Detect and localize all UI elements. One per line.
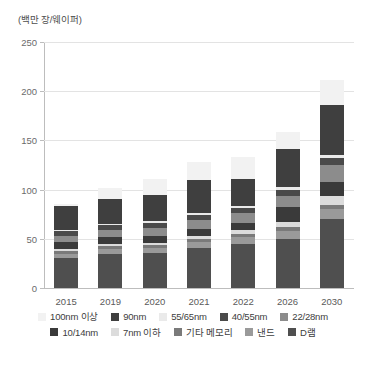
bar-stack: [143, 179, 167, 288]
bar-group[interactable]: 2019: [98, 188, 122, 288]
bar-segment[interactable]: [231, 179, 255, 207]
legend-item-label: 55/65nm: [171, 312, 207, 322]
bar-stack: [54, 204, 78, 289]
bar-segment[interactable]: [276, 231, 300, 239]
bar-segment[interactable]: [231, 213, 255, 223]
bar-segment[interactable]: [54, 206, 78, 230]
bar-stack: [231, 157, 255, 288]
legend-item-label: 100nm 이상: [50, 312, 98, 322]
bar-segment[interactable]: [187, 248, 211, 288]
bar-segment[interactable]: [320, 182, 344, 196]
legend-item-label: 낸드: [257, 328, 275, 338]
x-axis-tick-label: 2030: [321, 296, 342, 307]
y-axis-tick-mark: [40, 288, 44, 289]
bar-segment[interactable]: [320, 196, 344, 206]
y-axis-tick-label: 100: [21, 184, 37, 195]
plot-area: 050100150200250 201520192020202120222026…: [44, 42, 354, 288]
legend-row: 10/14nm7nm 이하기타 메모리낸드D램: [50, 328, 315, 338]
y-axis-tick-label: 0: [32, 283, 37, 294]
bar-segment[interactable]: [187, 229, 211, 236]
legend-item[interactable]: 40/55nm: [220, 312, 268, 322]
y-axis-tick-label: 200: [21, 86, 37, 97]
legend-swatch-icon: [174, 328, 182, 336]
legend-item-label: 7nm 이하: [123, 328, 161, 338]
chart-legend: 100nm 이상90nm55/65nm40/55nm22/28nm10/14nm…: [0, 312, 366, 337]
legend-item-label: 10/14nm: [62, 328, 98, 338]
bar-segment[interactable]: [320, 219, 344, 288]
legend-item[interactable]: 100nm 이상: [38, 312, 98, 322]
bar-segment[interactable]: [54, 258, 78, 288]
bar-stack: [187, 162, 211, 288]
axis-unit-caption: (백만 장/웨이퍼): [18, 12, 82, 26]
bar-segment[interactable]: [98, 199, 122, 225]
legend-item[interactable]: 90nm: [111, 312, 146, 322]
bar-segment[interactable]: [98, 188, 122, 199]
x-axis-tick-label: 2020: [144, 296, 165, 307]
stacked-bar-chart: (백만 장/웨이퍼) 050100150200250 2015201920202…: [0, 0, 366, 368]
bar-segment[interactable]: [320, 105, 344, 155]
legend-swatch-icon: [280, 313, 288, 321]
bar-segment[interactable]: [231, 244, 255, 288]
bar-group[interactable]: 2015: [54, 204, 78, 289]
bar-segment[interactable]: [320, 158, 344, 165]
bar-group[interactable]: 2022: [231, 157, 255, 288]
legend-item-label: 40/55nm: [232, 312, 268, 322]
bar-segment[interactable]: [54, 242, 78, 249]
y-axis-tick-label: 150: [21, 135, 37, 146]
bar-segment[interactable]: [320, 80, 344, 105]
bar-group[interactable]: 2020: [143, 179, 167, 288]
bar-segment[interactable]: [187, 220, 211, 229]
bar-segment[interactable]: [276, 239, 300, 288]
y-axis-tick-label: 50: [26, 233, 37, 244]
bar-group[interactable]: 2026: [276, 132, 300, 288]
bar-segment[interactable]: [231, 157, 255, 179]
x-axis-tick-label: 2022: [233, 296, 254, 307]
legend-item[interactable]: 10/14nm: [50, 328, 98, 338]
bar-stack: [276, 132, 300, 288]
legend-item-label: 22/28nm: [292, 312, 328, 322]
legend-item[interactable]: 55/65nm: [159, 312, 207, 322]
bar-segment[interactable]: [143, 253, 167, 288]
x-axis-tick-label: 2015: [56, 296, 77, 307]
legend-swatch-icon: [245, 328, 253, 336]
legend-swatch-icon: [111, 328, 119, 336]
bar-segment[interactable]: [320, 209, 344, 219]
bar-segment[interactable]: [231, 223, 255, 230]
bar-segment[interactable]: [187, 162, 211, 180]
bar-group[interactable]: 2021: [187, 162, 211, 288]
bar-segment[interactable]: [276, 196, 300, 208]
bar-group[interactable]: 2030: [320, 80, 344, 288]
bar-segment[interactable]: [276, 149, 300, 186]
legend-item-label: 90nm: [123, 312, 146, 322]
y-axis-tick-label: 250: [21, 37, 37, 48]
legend-item[interactable]: 22/28nm: [280, 312, 328, 322]
bar-segment[interactable]: [187, 180, 211, 213]
x-axis-tick-label: 2019: [100, 296, 121, 307]
legend-item-label: D램: [300, 328, 315, 338]
bar-segment[interactable]: [98, 254, 122, 288]
bar-segment[interactable]: [276, 132, 300, 150]
legend-item[interactable]: 낸드: [245, 328, 275, 338]
bar-stack: [98, 188, 122, 288]
legend-swatch-icon: [111, 313, 119, 321]
legend-item-label: 기타 메모리: [186, 328, 232, 338]
legend-swatch-icon: [159, 313, 167, 321]
bar-segment[interactable]: [276, 207, 300, 222]
bar-segment[interactable]: [143, 179, 167, 195]
legend-row: 100nm 이상90nm55/65nm40/55nm22/28nm: [38, 312, 328, 322]
legend-item[interactable]: 7nm 이하: [111, 328, 161, 338]
bars-layer: 2015201920202021202220262030: [44, 42, 354, 288]
bar-segment[interactable]: [143, 228, 167, 236]
gridline: [44, 288, 354, 289]
legend-item[interactable]: 기타 메모리: [174, 328, 232, 338]
bar-segment[interactable]: [98, 237, 122, 244]
legend-item[interactable]: D램: [288, 328, 315, 338]
legend-swatch-icon: [220, 313, 228, 321]
bar-segment[interactable]: [320, 165, 344, 182]
bar-segment[interactable]: [143, 195, 167, 222]
bar-stack: [320, 80, 344, 288]
bar-segment[interactable]: [231, 237, 255, 244]
bar-segment[interactable]: [143, 236, 167, 243]
bar-segment[interactable]: [98, 230, 122, 237]
legend-swatch-icon: [288, 328, 296, 336]
